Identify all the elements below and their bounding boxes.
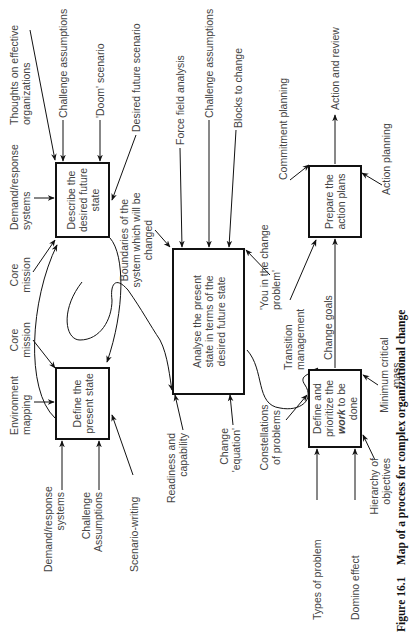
figure-title: Map of a process for complex organizatio… — [395, 310, 407, 565]
arrow-commitment — [290, 165, 309, 180]
label-transition: Transition management — [282, 300, 306, 370]
arrow-hierarchy — [363, 435, 375, 460]
box-analyse-present-state: Analyse the present state in terms of th… — [172, 248, 245, 395]
arrow-action-planning — [362, 173, 382, 185]
box-describe-future-state: Describe the desired future state — [55, 162, 110, 238]
label-boundaries: Boundaries of the system which will be c… — [118, 185, 154, 295]
label-challenge2: Challenge assumptions — [203, 9, 215, 118]
arrow-transition — [290, 240, 316, 300]
label-domino: Domino effect — [349, 555, 361, 620]
box-describe-label: Describe the desired future state — [65, 166, 101, 234]
box-analyse-label: Analyse the present state in terms of th… — [191, 252, 227, 391]
label-env-mapping: Environment mapping — [8, 355, 32, 435]
label-hierarchy: Hierarchy of objectives — [368, 458, 392, 520]
arrow-scenario-writing — [112, 415, 133, 475]
label-change-eq: Change 'equation' — [218, 428, 242, 490]
box-work-label-em: work — [335, 409, 347, 434]
label-challenge-caps: Challenge Assumptions — [80, 492, 104, 572]
label-core-mission1: Core mission — [8, 255, 32, 295]
arrow-present-to-describe — [35, 245, 57, 418]
box-work-label: Define and prioritize the work to be don… — [311, 373, 359, 444]
box-work-label-pre: Define and prioritize the — [311, 380, 335, 437]
figure-caption: Figure 16.1 Map of a process for complex… — [395, 310, 407, 632]
arrow-readiness — [175, 395, 183, 430]
label-constellations: Constellations of problems — [258, 400, 282, 475]
label-doom: 'Doom' scenario — [94, 43, 106, 118]
arrow-change-eq — [230, 395, 233, 425]
process-map-diagram: Describe the desired future state Define… — [0, 0, 418, 640]
box-define-present-state: Define the present state — [55, 367, 110, 440]
label-demand1: Demand/response systems — [8, 130, 32, 230]
arrow-core-mission2 — [33, 340, 55, 368]
label-desired-scenario: Desired future scenario — [130, 23, 142, 132]
arrow-thoughts — [30, 30, 55, 160]
box-prepare-label: Prepare the action plans — [323, 169, 347, 234]
arrow-constellations — [286, 395, 307, 420]
label-action-planning: Action planning — [380, 123, 392, 195]
label-readiness: Readiness and capability — [165, 433, 189, 505]
label-action-review: Action and review — [329, 27, 341, 110]
arrow-force-field — [180, 148, 182, 247]
arrow-boundaries — [155, 230, 170, 247]
figure-number: Figure 16.1 — [395, 577, 407, 632]
label-core-mission2: Core mission — [8, 320, 32, 360]
label-scenario-writing: Scenario-writing — [128, 497, 140, 572]
label-demand2: Demand/response systems — [42, 492, 66, 572]
box-prepare-action-plans: Prepare the action plans — [308, 165, 362, 238]
label-you-in: 'You in the change problem' — [258, 215, 282, 310]
label-blocks: Blocks to change — [232, 48, 244, 128]
arrow-blocks — [229, 130, 236, 247]
label-types: Types of problem — [311, 539, 323, 620]
label-change-goals: Change goals — [322, 295, 334, 360]
arrow-min-mass — [363, 375, 378, 385]
label-force-field: Force field analysis — [174, 55, 186, 145]
label-challenge1: Challenge assumptions — [57, 9, 69, 118]
label-thoughts: Thoughts on effective organizations — [8, 5, 32, 125]
box-define-prioritize-work: Define and prioritize the work to be don… — [308, 369, 362, 448]
label-commitment: Commitment planning — [277, 78, 289, 180]
box-present-label: Define the present state — [71, 371, 95, 436]
